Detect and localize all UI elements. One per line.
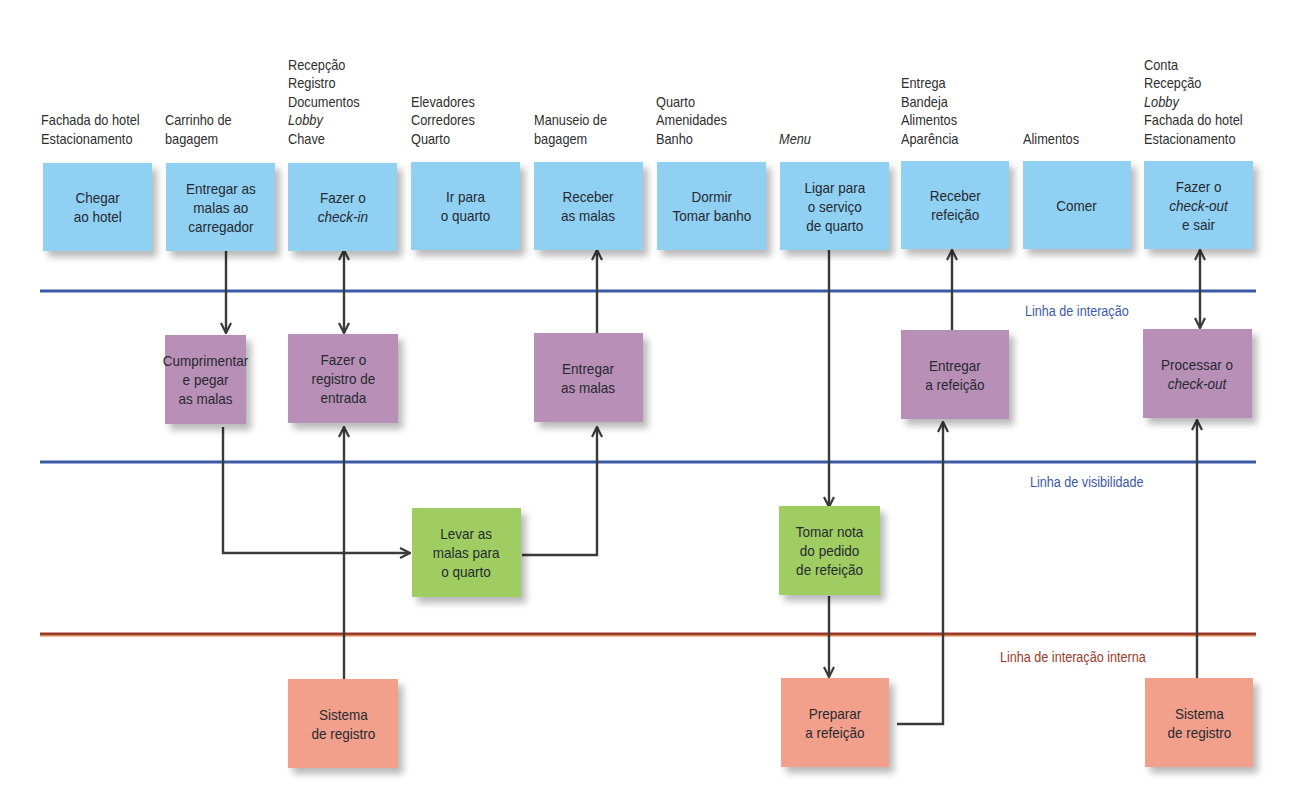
backstage-action-take-meal-order: Tomar nota do pedido de refeição [779,506,880,595]
evidence-10: Conta Recepção Lobby Fachada do hotel Es… [1144,56,1243,149]
customer-action-hand-bags: Entregar as malas ao carregador [166,163,275,251]
onstage-action-greet-take-bags: Cumprimentar e pegar as malas [165,335,246,424]
evidence-7: Menu [779,130,811,149]
support-process-prepare-meal: Preparar a refeição [781,678,889,767]
label-line-of-internal-interaction: Linha de interação interna [1000,649,1146,665]
backstage-action-take-bags-to-room: Levar as malas para o quarto [412,508,521,597]
customer-action-arrive: Chegar ao hotel [43,163,152,251]
evidence-9: Alimentos [1023,130,1079,149]
evidence-2: Carrinho de bagagem [165,111,232,148]
evidence-3: Recepção Registro Documentos Lobby Chave [288,56,360,149]
evidence-6: Quarto Amenidades Banho [656,93,727,149]
onstage-action-registration: Fazer o registro de entrada [288,334,398,423]
customer-action-check-in: Fazer o check-in [288,163,397,251]
customer-action-eat: Comer [1023,161,1131,249]
support-process-registration-system-1: Sistema de registro [288,679,398,768]
label-line-of-interaction: Linha de interação [1025,303,1129,319]
label-line-of-visibility: Linha de visibilidade [1030,474,1143,490]
customer-action-receive-bags: Receber as malas [534,162,643,250]
evidence-4: Elevadores Corredores Quarto [411,93,475,149]
evidence-5: Manuseio de bagagem [534,111,607,148]
evidence-8: Entrega Bandeja Alimentos Aparência [901,74,958,148]
support-process-registration-system-2: Sistema de registro [1145,678,1253,767]
evidence-1: Fachada do hotel Estacionamento [41,111,140,148]
customer-action-call-room-service: Ligar para o serviço de quarto [780,162,889,250]
customer-action-receive-meal: Receber refeição [901,161,1009,249]
customer-action-check-out: Fazer o check-out e sair [1144,161,1253,249]
customer-action-sleep-shower: Dormir Tomar banho [657,162,766,250]
customer-action-go-to-room: Ir para o quarto [411,162,520,250]
onstage-action-process-check-out: Processar o check-out [1143,329,1252,418]
onstage-action-deliver-meal: Entregar a refeição [901,330,1009,419]
service-blueprint-diagram: Fachada do hotel Estacionamento Carrinho… [0,0,1308,811]
onstage-action-deliver-bags: Entregar as malas [534,333,643,422]
